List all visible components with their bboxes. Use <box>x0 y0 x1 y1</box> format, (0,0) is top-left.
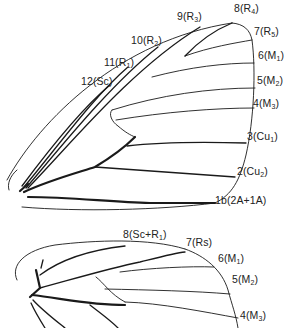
forewing-label-v3: 3(Cu1) <box>247 131 278 143</box>
vein-4-m3 <box>116 108 254 120</box>
hindwing-cubitus-stem <box>32 295 125 305</box>
vein-6-m1-hind <box>120 267 214 272</box>
vein-7-rs <box>40 252 185 288</box>
forewing-label-v11: 11(R1) <box>104 57 134 69</box>
forewing-base-edge <box>8 170 17 190</box>
hindwing-base <box>30 270 40 297</box>
hindwing-label-h5: 5(M2) <box>232 274 258 286</box>
vein-1b-2a-1a <box>28 197 215 203</box>
forewing-label-v1b: 1b(2A+1A) <box>215 195 266 206</box>
forewing-label-v9: 9(R3) <box>177 11 202 23</box>
hindwing-humeral-vein <box>41 260 43 268</box>
vein-6-m1 <box>152 63 254 77</box>
vein-9-r3 <box>28 27 200 188</box>
forewing <box>7 23 255 210</box>
hindwing-label-h8: 8(Sc+R1) <box>123 229 167 241</box>
hindwing-label-h7: 7(Rs) <box>186 237 212 248</box>
hindwing-label-h6: 6(M1) <box>218 253 244 265</box>
forewing-label-v7: 7(R5) <box>254 26 279 38</box>
vein-3-cu1 <box>127 142 246 146</box>
forewing-costa <box>7 23 232 180</box>
forewing-cubitus-stem <box>24 137 135 192</box>
hindwing-cu1 <box>90 305 118 328</box>
vein-7-r5 <box>185 40 252 56</box>
vein-5-m2 <box>112 88 255 110</box>
hindwing-label-h4: 4(M3) <box>240 310 266 322</box>
vein-4-m3-hind <box>125 302 238 318</box>
forewing-discocellular <box>110 110 135 137</box>
vein-2-cu2 <box>95 167 235 177</box>
hindwing-anal-vein <box>31 303 45 328</box>
hindwing <box>15 241 238 328</box>
forewing-label-v6: 6(M1) <box>258 50 284 62</box>
forewing-label-v2: 2(Cu2) <box>237 166 268 178</box>
forewing-label-v10: 10(R2) <box>131 35 162 47</box>
forewing-label-v5: 5(M2) <box>257 75 283 87</box>
forewing-label-v4: 4(M3) <box>253 98 279 110</box>
forewing-label-v8: 8(R4) <box>234 3 259 15</box>
forewing-label-v12: 12(Sc) <box>81 76 113 87</box>
hindwing-cu2 <box>33 300 65 328</box>
vein-5-m2-hind <box>105 289 230 294</box>
vein-8-sc-r1 <box>40 246 125 275</box>
